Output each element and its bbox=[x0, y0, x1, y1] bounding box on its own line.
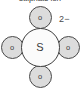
diagram-title: sulphate ion bbox=[0, 0, 80, 3]
sulphate-ion-diagram: sulphate ion o o S o o 2− bbox=[0, 0, 80, 91]
oxygen-atom-bottom-label: o bbox=[38, 72, 42, 81]
ion-charge-label: 2− bbox=[59, 14, 70, 24]
oxygen-atom-right: o bbox=[57, 36, 80, 59]
sulfur-atom-center-label: S bbox=[36, 41, 43, 53]
oxygen-atom-right-label: o bbox=[66, 43, 70, 52]
oxygen-atom-top: o bbox=[29, 6, 52, 29]
oxygen-atom-bottom: o bbox=[29, 65, 52, 88]
oxygen-atom-left-label: o bbox=[10, 43, 14, 52]
sulfur-atom-center: S bbox=[21, 28, 60, 67]
oxygen-atom-top-label: o bbox=[38, 13, 42, 22]
